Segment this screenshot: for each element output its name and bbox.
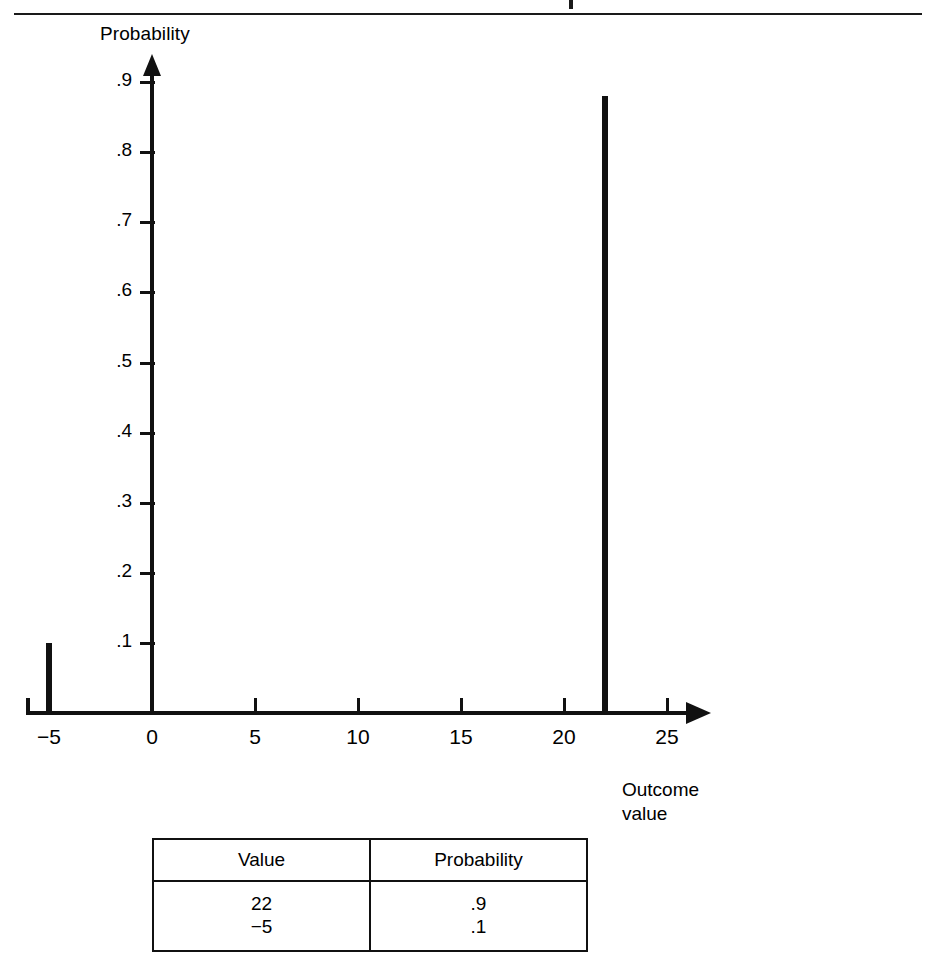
probability-distribution-figure: Probability .9.8.7.6.5.4.3.2.1 −50510152… bbox=[0, 0, 935, 967]
table-header-value: Value bbox=[154, 840, 370, 881]
bar bbox=[602, 96, 608, 713]
x-axis-tick bbox=[666, 698, 669, 713]
y-axis-tick-label: .3 bbox=[92, 490, 132, 512]
y-axis-arrowhead-icon bbox=[143, 54, 161, 76]
x-axis-tick bbox=[357, 698, 360, 713]
x-axis-arrowhead-icon bbox=[686, 702, 711, 724]
y-axis-tick bbox=[140, 291, 155, 294]
y-axis-tick-label: .6 bbox=[92, 279, 132, 301]
x-axis-tick bbox=[151, 698, 154, 713]
distribution-table: Value Probability 22 −5 .9 .1 bbox=[152, 838, 588, 952]
x-axis-tick-label: 20 bbox=[529, 725, 599, 749]
y-axis-tick bbox=[140, 151, 155, 154]
table-cell-probabilities-text: .9 .1 bbox=[372, 892, 585, 938]
x-axis-title: Outcome value bbox=[622, 778, 699, 826]
y-axis-tick bbox=[140, 432, 155, 435]
y-axis-tick bbox=[140, 502, 155, 505]
y-axis-tick bbox=[140, 81, 155, 84]
x-axis-left-endcap bbox=[26, 698, 30, 715]
y-axis-tick-label: .2 bbox=[92, 560, 132, 582]
x-axis-tick-label: 15 bbox=[426, 725, 496, 749]
bar bbox=[46, 643, 52, 713]
y-axis-line bbox=[150, 72, 154, 715]
x-axis-tick bbox=[563, 698, 566, 713]
table-header-probability: Probability bbox=[370, 840, 586, 881]
y-axis-tick bbox=[140, 572, 155, 575]
x-axis-tick-label: 5 bbox=[220, 725, 290, 749]
y-axis-tick-label: .9 bbox=[92, 69, 132, 91]
x-axis-tick-label: 25 bbox=[632, 725, 702, 749]
table-cell-probabilities: .9 .1 bbox=[370, 881, 586, 950]
y-axis-tick-label: .1 bbox=[92, 630, 132, 652]
y-axis-tick-label: .8 bbox=[92, 139, 132, 161]
table-row: 22 −5 .9 .1 bbox=[154, 881, 586, 950]
y-axis-tick bbox=[140, 642, 155, 645]
x-axis-tick-label: −5 bbox=[14, 725, 84, 749]
y-axis-tick-label: .5 bbox=[92, 350, 132, 372]
table-cell-values-text: 22 −5 bbox=[155, 892, 368, 938]
y-axis-tick-label: .7 bbox=[92, 209, 132, 231]
table-header-row: Value Probability bbox=[154, 840, 586, 881]
x-axis-tick-label: 10 bbox=[323, 725, 393, 749]
x-axis-tick-label: 0 bbox=[117, 725, 187, 749]
x-axis-tick bbox=[254, 698, 257, 713]
y-axis-tick-label: .4 bbox=[92, 420, 132, 442]
y-axis-tick bbox=[140, 221, 155, 224]
y-axis-title: Probability bbox=[100, 23, 190, 45]
plot-area: Probability .9.8.7.6.5.4.3.2.1 −50510152… bbox=[0, 0, 935, 800]
table-cell-values: 22 −5 bbox=[154, 881, 370, 950]
y-axis-tick bbox=[140, 362, 155, 365]
x-axis-tick bbox=[460, 698, 463, 713]
